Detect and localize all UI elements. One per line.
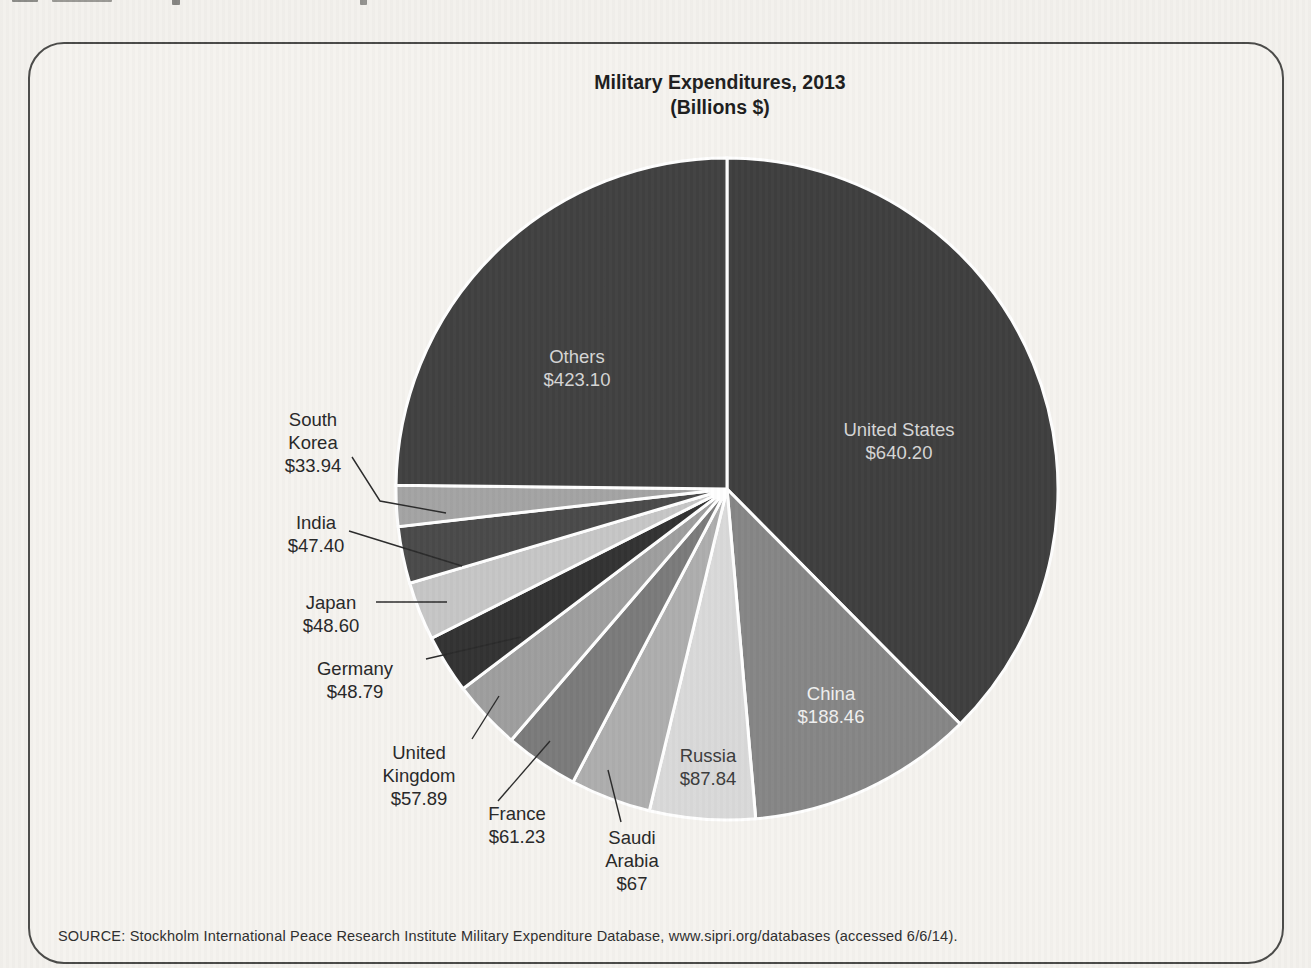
chart-title: Military Expenditures, 2013 (Billions $) — [390, 70, 1050, 120]
source-note: SOURCE: Stockholm International Peace Re… — [58, 928, 958, 944]
pie-chart-svg — [0, 0, 1311, 968]
chart-title-line2: (Billions $) — [390, 95, 1050, 120]
pie-slice-others — [396, 158, 727, 489]
scanned-book-page: { "page": { "background_color": "#f3f1ed… — [0, 0, 1311, 968]
chart-title-line1: Military Expenditures, 2013 — [390, 70, 1050, 95]
